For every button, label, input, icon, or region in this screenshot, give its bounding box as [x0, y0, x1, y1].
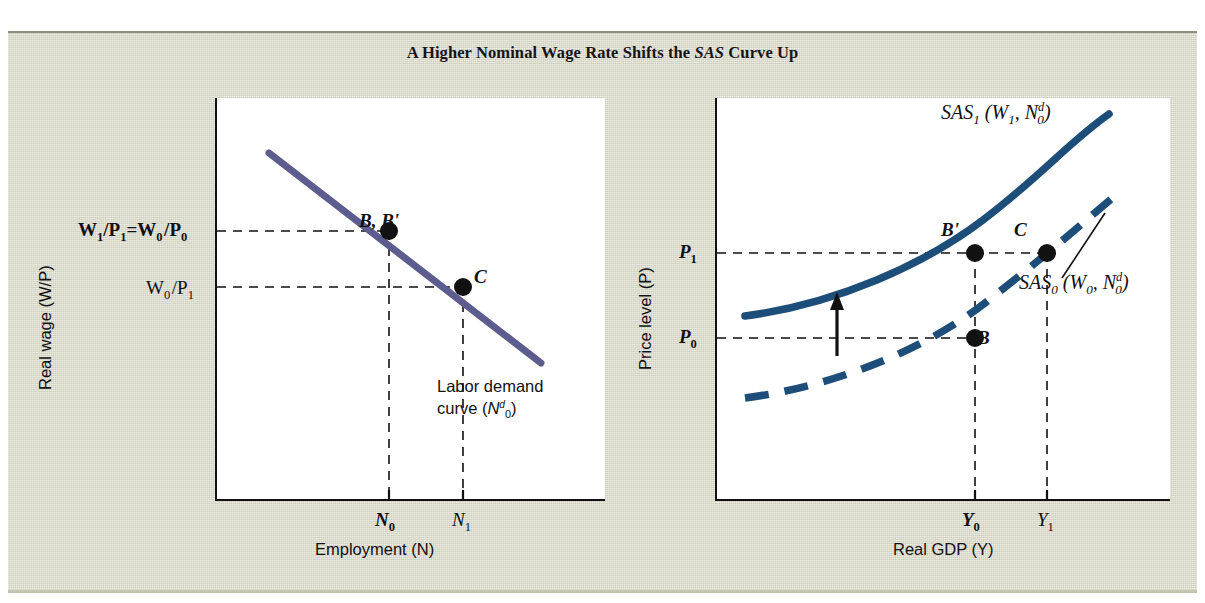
ytick2-w-base: W — [146, 277, 164, 298]
sas1-nsub: 0 — [1037, 112, 1044, 127]
sas1-comma: , — [1015, 101, 1025, 123]
ytick-w0-base: W — [137, 219, 156, 240]
sas1-sub: 1 — [973, 112, 980, 127]
right-xtick-label-y1: Y1 — [1037, 509, 1054, 531]
ytick-w0-sub: 0 — [156, 230, 162, 244]
right-x-axis-title: Real GDP (Y) — [893, 540, 994, 559]
xtick-n1-base: N — [452, 509, 465, 530]
right-point-c-marker — [1038, 244, 1056, 262]
left-xtick-label-n1: N1 — [452, 509, 471, 531]
sas0-sub: 0 — [1051, 282, 1058, 297]
labor-demand-annotation-line2: curve (Nd0) — [437, 397, 543, 419]
xtick-n0-sub: 0 — [389, 520, 395, 534]
xtick-y1s: 1 — [1048, 520, 1054, 534]
left-point-label-b: B, B' — [359, 210, 399, 232]
ytick-equals: = — [126, 219, 137, 240]
sas0-wsub: 0 — [1086, 282, 1093, 297]
ytick-p0b: P — [679, 326, 691, 347]
sas0-curve-label: SAS0 (W0, Nd0) — [1019, 271, 1129, 294]
left-ytick-w0p1: W0 /P1 — [146, 277, 194, 299]
right-chart-plot-area — [715, 98, 1170, 501]
figure-title-italic: SAS — [694, 43, 724, 62]
xtick-n0-base: N — [375, 509, 389, 530]
ytick-p1s: 1 — [691, 252, 697, 266]
sas0-close: ) — [1122, 271, 1129, 293]
sas0-name: SAS — [1019, 271, 1051, 293]
figure-title-post: Curve Up — [724, 43, 798, 62]
xtick-y1b: Y — [1037, 509, 1048, 530]
figure-title-pre: A Higher Nominal Wage Rate Shifts the — [407, 43, 695, 62]
right-point-label-c: C — [1014, 219, 1027, 241]
shift-up-arrow-icon — [830, 292, 844, 356]
left-xtick-label-n0: N0 — [375, 509, 395, 531]
right-point-label-bprime: B' — [941, 219, 959, 241]
right-ytick-label-p0: P0 — [679, 326, 697, 348]
xtick-y0s: 0 — [974, 520, 980, 534]
left-point-c-marker — [454, 278, 472, 296]
labor-demand-curve-annotation: Labor demand curve (Nd0) — [437, 375, 543, 420]
left-chart-plot-area — [215, 98, 605, 501]
ytick-p1b: P — [679, 241, 691, 262]
sas0-comma: , — [1093, 271, 1103, 293]
ytick-p1-base: P — [109, 219, 121, 240]
ytick-p0-sub: 0 — [181, 230, 187, 244]
figure-container: A Higher Nominal Wage Rate Shifts the SA… — [0, 0, 1205, 603]
labor-demand-curve — [269, 153, 541, 363]
ytick-w1-base: W — [78, 219, 97, 240]
sas1-curve-label: SAS1 (W1, Nd0) — [941, 101, 1051, 124]
sas1-open: ( — [980, 101, 992, 123]
sas1-wsub: 1 — [1008, 112, 1015, 127]
ytick2-w-sub: 0 — [164, 288, 170, 302]
ytick-w1-sub: 1 — [97, 230, 103, 244]
ytick-p0-base: P — [169, 219, 181, 240]
right-xtick-label-y0: Y0 — [962, 509, 980, 531]
xtick-y0b: Y — [962, 509, 974, 530]
left-y-axis-title: Real wage (W/P) — [36, 265, 55, 390]
left-axis-ticks — [389, 490, 463, 501]
sas1-name: SAS — [941, 101, 973, 123]
right-chart-svg — [717, 98, 1172, 501]
sas0-open: ( — [1058, 271, 1070, 293]
sas0-leader-line — [1062, 213, 1105, 278]
right-axis-ticks — [975, 490, 1047, 501]
ld-pre: curve ( — [437, 399, 487, 417]
sas1-close: ) — [1044, 101, 1051, 123]
ytick2-p-sub: 1 — [188, 288, 194, 302]
left-ytick-w1p1-w0p0: W1/P1=W0 /P0 — [78, 219, 187, 241]
ytick-p0s: 0 — [691, 337, 697, 351]
right-guideline-group — [717, 253, 1047, 501]
ld-base: N — [487, 399, 499, 417]
sas0-nsub: 0 — [1115, 282, 1122, 297]
sas0-w: W — [1069, 271, 1086, 293]
left-chart-svg — [217, 98, 607, 501]
right-ytick-label-p1: P1 — [679, 241, 697, 263]
sas1-w: W — [991, 101, 1008, 123]
labor-demand-annotation-line1: Labor demand — [437, 375, 543, 397]
right-point-label-b: B — [977, 327, 990, 349]
left-point-label-c: C — [474, 266, 487, 288]
sas0-curve — [745, 194, 1117, 398]
right-point-bprime-marker — [966, 244, 984, 262]
ld-post: ) — [511, 399, 517, 417]
right-y-axis-title: Price level (P) — [636, 267, 655, 370]
left-x-axis-title: Employment (N) — [315, 540, 434, 559]
figure-title: A Higher Nominal Wage Rate Shifts the SA… — [0, 43, 1205, 63]
ytick2-p-base: P — [177, 277, 188, 298]
xtick-n1-sub: 1 — [465, 520, 471, 534]
